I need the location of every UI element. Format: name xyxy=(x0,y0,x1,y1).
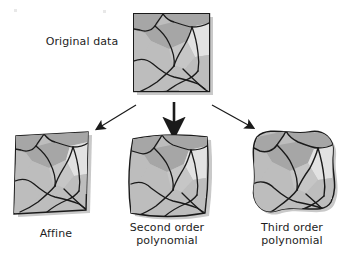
third-order-label: Third order polynomial xyxy=(238,222,346,247)
original-data-label: Original data xyxy=(30,36,134,49)
second-order-label: Second order polynomial xyxy=(112,222,222,247)
affine-thumbnail xyxy=(10,131,96,221)
arrow-left xyxy=(100,105,136,127)
raster-map-thumbnail-affine xyxy=(14,132,92,217)
scan-artifact-speck xyxy=(14,9,17,12)
arrow-right xyxy=(212,105,250,126)
second-order-thumbnail xyxy=(126,133,218,225)
figure-canvas: Original data xyxy=(0,0,353,266)
raster-map-thumbnail-third-order xyxy=(252,131,338,218)
scan-artifact-speck xyxy=(103,10,106,13)
original-data-thumbnail xyxy=(133,13,215,99)
raster-map-thumbnail-second-order xyxy=(129,135,212,220)
raster-map-thumbnail xyxy=(134,14,214,96)
third-order-thumbnail xyxy=(246,127,346,225)
affine-label: Affine xyxy=(8,228,104,241)
